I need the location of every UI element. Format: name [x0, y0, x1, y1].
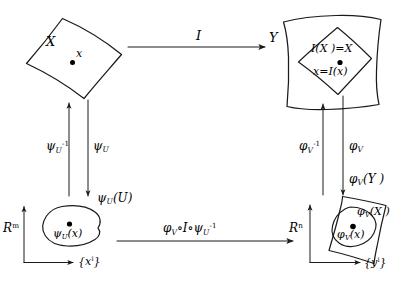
psi-arg: (x) [68, 227, 83, 240]
phiV-X-region-label: φV(X ) [357, 206, 390, 219]
R-glyph: R [3, 221, 12, 235]
manifold-X-outline [27, 19, 122, 99]
arrow-phiV-label: φV [349, 140, 363, 154]
psiU-U-region-label: ψU(U) [97, 192, 132, 206]
Rn-axis-label: {yi} [364, 257, 387, 268]
manifold-IX-label: I(X )=X [311, 43, 352, 54]
psi-sub: U [56, 146, 62, 155]
psi-sup: -1 [62, 139, 69, 148]
manifold-X-point [70, 60, 75, 65]
psiU-x-point-label: ψU(x) [53, 228, 82, 241]
arrow-psiU-label: ψU [93, 140, 109, 154]
psi-glyph: ψ [93, 139, 102, 153]
manifold-IX-outline [299, 28, 372, 95]
R-exponent: m [12, 221, 19, 230]
psiU-x-point [67, 221, 72, 226]
axis-close: } [94, 255, 101, 268]
axis-close: } [380, 256, 387, 269]
R-exponent: n [298, 221, 303, 230]
phi-glyph: φ [163, 221, 171, 235]
phi-glyph: φ [357, 205, 365, 218]
Rm-axis-label: {xi} [78, 256, 101, 267]
psi-glyph: ψ [97, 191, 106, 205]
arrow-composition-label: φV∘I∘ψU-1 [163, 222, 217, 236]
phi-sup: -1 [313, 139, 320, 148]
axis-open: {x [78, 255, 91, 268]
manifold-Y-label: Y [269, 31, 278, 44]
phi-arg: (X ) [370, 205, 390, 218]
arrow-phiV-inverse-label: φV-1 [299, 140, 320, 154]
arrow-psiU-inverse-label: ψU-1 [46, 140, 69, 154]
phiV-Y-region-label: φV(Y ) [349, 173, 384, 187]
manifold-X-label: X [46, 35, 55, 48]
phi-arg: (Y ) [363, 172, 384, 186]
psi-arg: (U) [113, 191, 132, 205]
phiV-x-point-label: φV(x) [337, 229, 365, 242]
psi-glyph: ψ [53, 227, 62, 240]
R-glyph: R [289, 221, 298, 235]
phi-glyph: φ [349, 139, 357, 153]
composition-mid: ∘I∘ψ [177, 221, 203, 235]
phi-glyph: φ [337, 228, 345, 241]
phi-glyph: φ [299, 139, 307, 153]
commutative-diagram: X x I Y I(X )=X x=I(x) ψU-1 ψU ψU(U) ψU(… [0, 0, 419, 284]
Rm-label: Rm [3, 222, 19, 234]
psi-sub: U [203, 228, 209, 237]
manifold-Y-point-label: x=I(x) [313, 66, 348, 77]
psi-sup: -1 [210, 221, 217, 230]
axis-open: {y [364, 256, 377, 269]
arrow-I-label: I [196, 29, 201, 42]
psi-sub: U [103, 145, 109, 154]
psi-glyph: ψ [46, 139, 55, 153]
manifold-Y-outline [284, 15, 382, 109]
phi-sub: V [358, 145, 363, 154]
phi-glyph: φ [349, 172, 357, 186]
phi-arg: (x) [350, 228, 365, 241]
manifold-X-point-label: x [76, 48, 82, 59]
Rn-label: Rn [289, 222, 303, 234]
